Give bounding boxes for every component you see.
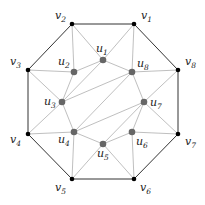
edge-v1-u8	[132, 24, 134, 72]
vertex-v4	[26, 132, 31, 137]
vertex-v3	[26, 68, 31, 73]
vertex-v1	[132, 22, 137, 27]
graph-diagram: v1v2v3v4v5v6v7v8u1u2u3u4u5u6u7u8	[0, 0, 205, 205]
graph-canvas: v1v2v3v4v5v6v7v8u1u2u3u4u5u6u7u8	[0, 0, 205, 205]
vertex-v8	[176, 68, 181, 73]
label-v6: v6	[140, 181, 151, 196]
vertex-v6	[132, 177, 137, 182]
edge-u7-u8	[132, 72, 144, 102]
vertex-v5	[70, 177, 75, 182]
label-v8: v8	[185, 55, 196, 70]
edge-v5-u4	[72, 132, 74, 179]
vertex-u4	[71, 129, 78, 136]
label-u2: u2	[58, 55, 70, 70]
label-v1: v1	[141, 9, 152, 24]
vertex-u6	[129, 129, 136, 136]
edge-v6-u6	[132, 132, 134, 179]
vertex-u7	[141, 99, 148, 106]
edge-v4-u4	[28, 132, 74, 134]
label-u6: u6	[136, 135, 148, 150]
edge-v3-u2	[28, 70, 74, 72]
label-u7: u7	[150, 96, 162, 111]
edge-u5-u6	[103, 132, 132, 144]
edge-u4-u5	[74, 132, 103, 144]
vertex-u2	[71, 69, 78, 76]
edge-u3-u4	[62, 102, 74, 132]
label-v2: v2	[55, 9, 66, 24]
vertex-u8	[129, 69, 136, 76]
label-v3: v3	[10, 55, 21, 70]
edge-v6-u5	[103, 144, 134, 179]
vertex-v7	[176, 132, 181, 137]
label-u1: u1	[96, 42, 108, 57]
label-u8: u8	[137, 57, 149, 72]
vertex-u1	[100, 57, 107, 64]
label-u4: u4	[58, 133, 70, 148]
label-v5: v5	[55, 181, 66, 196]
edge-v8-u8	[132, 70, 178, 72]
edge-v2-u2	[72, 24, 74, 72]
label-v4: v4	[10, 133, 21, 148]
label-v7: v7	[185, 135, 196, 150]
edge-u8-u1	[103, 60, 132, 72]
label-u3: u3	[44, 95, 56, 110]
vertex-v2	[70, 22, 75, 27]
vertex-u3	[59, 99, 66, 106]
edge-v7-u6	[132, 132, 178, 134]
edge-u1-u2	[74, 60, 103, 72]
